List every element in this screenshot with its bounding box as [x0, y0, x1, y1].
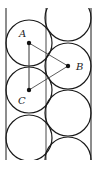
- circle-top-right: [45, 0, 91, 41]
- segment-ab: [29, 43, 68, 66]
- center-b-dot: [66, 64, 70, 68]
- circle-bottom-left: [6, 115, 52, 161]
- label-a: A: [18, 28, 26, 39]
- circle-packing-diagram: A B C: [0, 0, 95, 171]
- segment-bc: [29, 66, 68, 90]
- label-c: C: [18, 95, 26, 106]
- center-c-dot: [27, 88, 31, 92]
- center-a-dot: [27, 41, 31, 45]
- label-b: B: [75, 61, 83, 72]
- circle-mid-right: [45, 90, 91, 136]
